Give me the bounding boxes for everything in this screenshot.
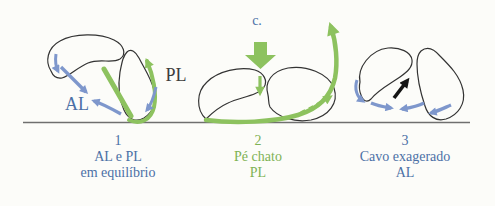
panel-2-flat-foot: c. <box>199 13 337 122</box>
figure-part-label: c. <box>252 13 262 28</box>
al-diagonal-arrow <box>61 67 86 92</box>
al-inward-right-arrow <box>371 103 391 108</box>
pl-force-curve-arrow <box>129 61 155 122</box>
hindfoot-bone-outline <box>199 69 266 119</box>
hindfoot-bone-outline <box>48 35 124 78</box>
captions: 1 AL e PL em equilíbrio 2 Pé chato PL 3 … <box>80 133 450 180</box>
caption-2: 2 Pé chato PL <box>234 133 282 180</box>
al-small-down-arrow <box>56 54 58 71</box>
pl-label: PL <box>165 65 186 85</box>
caption-2-line2: PL <box>250 165 266 180</box>
caption-3: 3 Cavo exagerado AL <box>360 133 451 180</box>
caption-3-line2: AL <box>396 165 415 180</box>
caption-1-line1: AL e PL <box>94 149 142 164</box>
panel-3-cavus-foot <box>356 48 464 120</box>
caption-2-number: 2 <box>255 133 262 148</box>
al-forefoot-left-arrow <box>431 105 451 113</box>
hindfoot-bone-outline <box>359 48 412 101</box>
figure-page: AL PL c. 1 AL e PL <box>0 0 495 206</box>
foot-arch-diagram: AL PL c. 1 AL e PL <box>0 0 495 206</box>
caption-3-line1: Cavo exagerado <box>360 149 451 164</box>
caption-2-line1: Pé chato <box>234 149 282 164</box>
al-label: AL <box>65 94 89 114</box>
caption-1-number: 1 <box>115 133 122 148</box>
caption-1: 1 AL e PL em equilíbrio <box>80 133 155 180</box>
al-inward-left-arrow <box>402 103 424 109</box>
body-weight-down-arrow <box>245 42 276 69</box>
al-pull-left-arrow <box>94 101 121 114</box>
caption-3-number: 3 <box>402 133 409 148</box>
forefoot-bone-outline <box>119 50 155 120</box>
caption-1-line2: em equilíbrio <box>80 165 155 180</box>
arch-apex-up-arrow <box>394 81 407 98</box>
panel-1-balanced-foot: AL PL <box>48 35 187 122</box>
